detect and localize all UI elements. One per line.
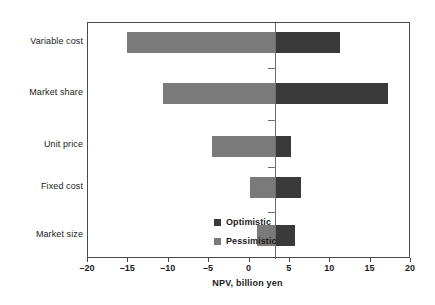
bar-segment-pessimistic	[127, 32, 276, 53]
legend-label: Pessimistic	[226, 236, 277, 246]
plot-area: OptimisticPessimistic	[87, 22, 410, 258]
bar-segment-optimistic	[275, 32, 340, 53]
x-axis-tick-label: –15	[107, 263, 147, 273]
bar-segment-optimistic	[275, 83, 388, 104]
x-axis-title-text: NPV, billion yen	[212, 278, 282, 288]
legend-item: Optimistic	[214, 215, 277, 229]
bar-row	[88, 83, 409, 104]
bar-row	[88, 177, 409, 198]
x-axis-title: NPV, billion yen	[0, 278, 435, 288]
tornado-chart-figure: Variable costMarket shareUnit priceFixed…	[0, 0, 435, 305]
x-axis-tick-mark	[329, 258, 330, 262]
x-axis-tick-mark	[370, 258, 371, 262]
x-axis-tick-mark	[410, 258, 411, 262]
y-axis-label: Variable cost	[0, 36, 83, 46]
axis-inner-tick	[268, 212, 275, 213]
x-axis-tick-mark	[289, 258, 290, 262]
y-axis-label: Market size	[0, 229, 83, 239]
x-axis-tick-mark	[249, 258, 250, 262]
x-axis-tick-label: 20	[390, 263, 430, 273]
y-axis-label: Unit price	[0, 139, 83, 149]
y-axis-label: Market share	[0, 87, 83, 97]
x-axis-tick-label: 5	[269, 263, 309, 273]
axis-inner-tick	[268, 167, 275, 168]
x-axis-tick-label: 0	[229, 263, 269, 273]
bar-segment-optimistic	[275, 225, 294, 246]
axis-inner-tick	[268, 68, 275, 69]
legend-swatch	[214, 238, 221, 245]
x-axis-tick-label: –10	[148, 263, 188, 273]
axis-inner-tick	[268, 120, 275, 121]
legend-swatch	[214, 219, 221, 226]
legend-item: Pessimistic	[214, 234, 277, 248]
x-axis-tick-label: –20	[67, 263, 107, 273]
legend-label: Optimistic	[226, 217, 271, 227]
x-axis-tick-mark	[127, 258, 128, 262]
x-axis-tick-mark	[168, 258, 169, 262]
bar-segment-optimistic	[275, 177, 301, 198]
x-axis-tick-label: 15	[350, 263, 390, 273]
y-axis-label: Fixed cost	[0, 181, 83, 191]
bar-row	[88, 136, 409, 157]
x-axis-tick-label: –5	[188, 263, 228, 273]
bar-segment-optimistic	[275, 136, 290, 157]
bar-segment-pessimistic	[250, 177, 275, 198]
legend: OptimisticPessimistic	[214, 215, 277, 253]
x-axis-tick-mark	[208, 258, 209, 262]
x-axis-tick-label: 10	[309, 263, 349, 273]
bar-segment-pessimistic	[212, 136, 275, 157]
bar-segment-pessimistic	[163, 83, 275, 104]
x-axis-tick-mark	[87, 258, 88, 262]
bar-row	[88, 32, 409, 53]
